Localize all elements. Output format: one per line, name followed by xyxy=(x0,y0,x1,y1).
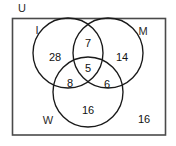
venn-diagram-figure: U I M W 28 14 16 7 8 6 5 16 xyxy=(0,0,176,146)
universal-set-label: U xyxy=(18,2,26,14)
region-value-all-three: 5 xyxy=(85,62,91,74)
region-value-i-and-w: 8 xyxy=(67,77,73,89)
region-value-i-and-m: 7 xyxy=(85,37,91,49)
set-label-m: M xyxy=(138,25,147,37)
region-value-w-only: 16 xyxy=(82,104,94,116)
region-value-m-only: 14 xyxy=(116,51,128,63)
region-value-outside: 16 xyxy=(138,113,150,125)
set-label-i: I xyxy=(35,24,38,36)
venn-diagram-canvas: U I M W 28 14 16 7 8 6 5 16 xyxy=(0,0,176,146)
set-label-w: W xyxy=(43,114,54,126)
region-value-m-and-w: 6 xyxy=(104,78,110,90)
region-value-i-only: 28 xyxy=(49,51,61,63)
